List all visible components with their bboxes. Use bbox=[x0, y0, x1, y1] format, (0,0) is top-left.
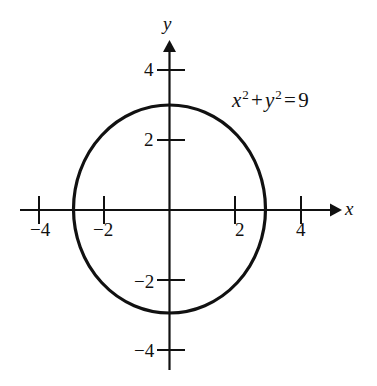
x-tick-label-neg4: −4 bbox=[30, 220, 50, 239]
x-tick-label-pos4: 4 bbox=[296, 220, 306, 239]
equation-term1-exponent: 2 bbox=[242, 87, 249, 102]
y-axis-label: y bbox=[163, 14, 171, 33]
equation-term2-base: y bbox=[265, 88, 275, 112]
y-axis-arrowhead bbox=[163, 40, 176, 52]
equation-plus-operator: + bbox=[249, 88, 265, 112]
y-tick-label-pos2: 2 bbox=[144, 130, 154, 149]
equation-right-hand-side: 9 bbox=[298, 88, 309, 112]
equation-term2-exponent: 2 bbox=[275, 87, 282, 102]
graph-figure: −4 −2 2 4 4 2 −2 −4 y x x2+y2=9 bbox=[0, 0, 377, 386]
plot-canvas bbox=[0, 0, 377, 386]
equation-annotation: x2+y2=9 bbox=[232, 90, 309, 111]
y-tick-label-pos4: 4 bbox=[144, 60, 154, 79]
x-axis-arrowhead bbox=[330, 204, 342, 217]
x-axis-label: x bbox=[345, 199, 353, 218]
y-tick-label-neg4: −4 bbox=[134, 341, 154, 360]
y-tick-label-neg2: −2 bbox=[134, 272, 154, 291]
equation-term1-base: x bbox=[232, 88, 242, 112]
equation-equals-operator: = bbox=[282, 88, 298, 112]
x-tick-label-pos2: 2 bbox=[235, 220, 245, 239]
x-tick-label-neg2: −2 bbox=[93, 220, 113, 239]
